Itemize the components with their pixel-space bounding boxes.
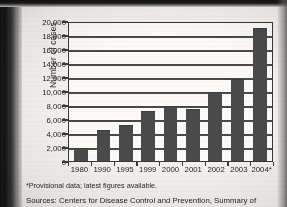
bar-chart-figure: Number of cases 02,0004,0006,0008,00010,… [24, 10, 278, 207]
bar-slot [137, 23, 159, 161]
bar-slot [249, 23, 271, 161]
y-axis-tick-mark [62, 147, 68, 148]
chart-plot-area: Number of cases 02,0004,0006,0008,00010,… [24, 10, 278, 178]
y-axis-tick-label: 0 [30, 158, 66, 167]
bar-slot [115, 23, 137, 161]
bar-2003 [231, 79, 245, 161]
y-axis-tick-mark [62, 63, 68, 64]
bar-slot [92, 23, 114, 161]
x-axis-tick-label: 2000 [159, 165, 182, 174]
top-edge-shadow [0, 0, 287, 7]
bar-slot [70, 23, 92, 161]
y-axis-tick-labels: 02,0004,0006,0008,00010,00012,00014,0001… [30, 22, 66, 162]
figure-footnote: *Provisional data; latest figures availa… [26, 181, 157, 190]
y-axis-tick-mark [62, 77, 68, 78]
y-axis-tick-label: 20,000 [30, 18, 66, 27]
y-axis-tick-label: 6,000 [30, 116, 66, 125]
x-axis-tick-label: 1999 [136, 165, 159, 174]
y-axis-tick-label: 8,000 [30, 102, 66, 111]
y-axis-tick-mark [62, 161, 68, 162]
bar-1980 [74, 148, 88, 161]
y-axis-tick-label: 2,000 [30, 144, 66, 153]
bar-1995 [119, 125, 133, 161]
y-axis-tick-mark [62, 91, 68, 92]
bars-layer [69, 23, 272, 161]
bar-2002 [208, 92, 222, 161]
x-axis-tick-label: 1990 [91, 165, 114, 174]
scanned-page: Number of cases 02,0004,0006,0008,00010,… [0, 0, 287, 207]
y-axis-tick-mark [62, 105, 68, 106]
y-axis-tick-label: 18,000 [30, 32, 66, 41]
x-axis-tick-label: 2002 [205, 165, 228, 174]
bar-2004 [253, 28, 267, 161]
y-axis-tick-mark [62, 119, 68, 120]
x-axis-tick-label: 1995 [114, 165, 137, 174]
plot-frame [68, 22, 273, 162]
book-gutter-shadow [0, 0, 22, 207]
y-axis-tick-label: 14,000 [30, 60, 66, 69]
bar-1990 [97, 130, 111, 162]
x-axis-tick-label: 2004* [250, 165, 273, 174]
figure-sources: Sources: Centers for Disease Control and… [26, 196, 278, 206]
y-axis-tick-label: 10,000 [30, 88, 66, 97]
y-axis-tick-mark [62, 133, 68, 134]
x-axis-tick-label: 1980 [68, 165, 91, 174]
y-axis-tick-label: 12,000 [30, 74, 66, 83]
bar-2000 [164, 106, 178, 161]
x-axis-tick-label: 2001 [182, 165, 205, 174]
x-axis-tick-label: 2003 [227, 165, 250, 174]
bar-slot [159, 23, 181, 161]
bar-slot [204, 23, 226, 161]
y-axis-tick-mark [62, 49, 68, 50]
y-axis-tick-mark [62, 35, 68, 36]
bar-slot [182, 23, 204, 161]
bar-slot [226, 23, 248, 161]
y-axis-tick-label: 16,000 [30, 46, 66, 55]
x-axis-tick-labels: 198019901995199920002001200220032004* [68, 165, 273, 174]
right-edge-shadow [277, 0, 287, 207]
y-axis-tick-label: 4,000 [30, 130, 66, 139]
y-axis-tick-mark [62, 21, 68, 22]
bar-1999 [141, 111, 155, 161]
x-axis-tick-mark [273, 162, 274, 166]
bar-2001 [186, 109, 200, 162]
